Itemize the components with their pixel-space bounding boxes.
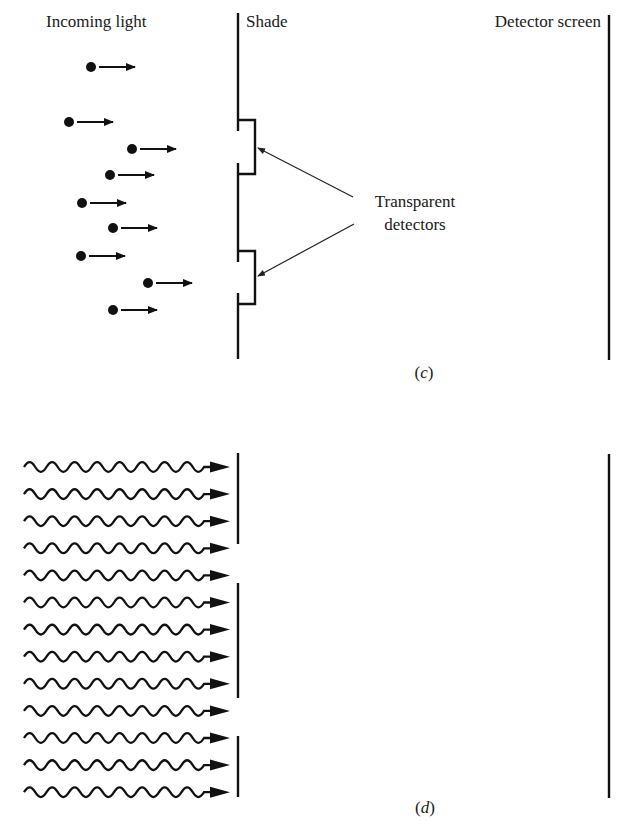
caption-d: (d) bbox=[415, 798, 435, 817]
wave-arrowhead bbox=[210, 597, 230, 608]
wave-arrowhead bbox=[210, 624, 230, 635]
transparent-detectors-label-line1: Transparent bbox=[375, 192, 456, 211]
detector-screen-label: Detector screen bbox=[495, 12, 602, 31]
particle-dot bbox=[86, 62, 96, 72]
shade-barrier bbox=[238, 13, 255, 359]
particle-dot bbox=[76, 251, 86, 261]
particle-dot bbox=[105, 170, 115, 180]
wave-line bbox=[24, 625, 212, 635]
wave-arrowhead bbox=[210, 516, 230, 527]
wave-line bbox=[24, 652, 212, 662]
caption-c: (c) bbox=[415, 363, 434, 382]
wave-arrowhead bbox=[210, 678, 230, 689]
particle-dot bbox=[108, 223, 118, 233]
particle-dot bbox=[64, 117, 74, 127]
particle-dot bbox=[143, 278, 153, 288]
wave-line bbox=[24, 733, 212, 743]
pointer-arrow-detector-2 bbox=[258, 224, 354, 276]
two-slit-diagram: Incoming light Shade Detector screen Tra… bbox=[0, 0, 643, 837]
wave-line bbox=[24, 543, 212, 553]
wave-line bbox=[24, 516, 212, 526]
wave-arrowhead bbox=[210, 733, 230, 744]
wave-arrowhead bbox=[210, 705, 230, 716]
wave-line bbox=[24, 706, 212, 716]
transparent-detector bbox=[238, 251, 255, 304]
transparent-detector bbox=[238, 120, 255, 174]
photon-particles bbox=[64, 62, 192, 315]
wave-arrowhead bbox=[210, 462, 230, 473]
wave-arrowhead bbox=[210, 570, 230, 581]
wave-arrowhead bbox=[210, 489, 230, 500]
particle-dot bbox=[127, 144, 137, 154]
panel-d: (d) bbox=[24, 453, 609, 817]
wave-line bbox=[24, 679, 212, 689]
wave-arrowhead bbox=[210, 787, 230, 798]
pointer-arrow-detector-1 bbox=[258, 148, 353, 197]
transparent-detectors-label-line2: detectors bbox=[384, 215, 445, 234]
wave-line bbox=[24, 787, 212, 797]
wave-line bbox=[24, 598, 212, 608]
wave-line bbox=[24, 571, 212, 581]
incoming-light-label: Incoming light bbox=[46, 12, 147, 31]
shade-label: Shade bbox=[246, 12, 288, 31]
wave-arrowhead bbox=[210, 760, 230, 771]
particle-dot bbox=[108, 305, 118, 315]
wave-line bbox=[24, 760, 212, 770]
wave-arrowhead bbox=[210, 543, 230, 554]
wave-line bbox=[24, 489, 212, 499]
panel-c: Incoming light Shade Detector screen Tra… bbox=[46, 12, 609, 382]
wave-arrowhead bbox=[210, 651, 230, 662]
particle-dot bbox=[77, 198, 87, 208]
wave-line bbox=[24, 462, 212, 472]
light-waves bbox=[24, 462, 230, 798]
